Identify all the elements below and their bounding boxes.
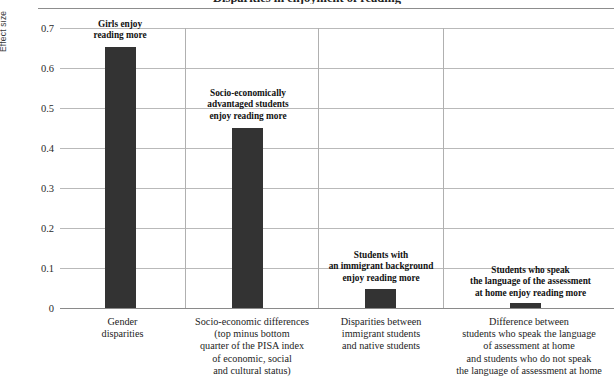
x-category-label-socioeconomic: Socio-economic differences (top minus bo… — [186, 316, 318, 377]
gridline-0 — [60, 308, 614, 309]
y-tick-label-0.4: 0.4 — [2, 143, 60, 154]
y-tick-label-0.7: 0.7 — [2, 23, 60, 34]
y-tick-label-0.2: 0.2 — [2, 223, 60, 234]
category-separator-1 — [185, 28, 186, 308]
gridline-0.6 — [60, 68, 614, 69]
y-tick-label-0.3: 0.3 — [2, 183, 60, 194]
bar-annotation-immigrant: Students with an immigrant background en… — [306, 250, 456, 284]
y-tick-label-0.1: 0.1 — [2, 263, 60, 274]
bar-annotation-gender: Girls enjoy reading more — [55, 19, 185, 42]
title-divider — [38, 8, 614, 9]
chart-title: Disparities in enjoyment of reading — [0, 0, 614, 4]
y-tick-label-0.5: 0.5 — [2, 103, 60, 114]
plot-area: 0.7 0.6 0.5 0.4 0.3 0.2 0.1 0 Girls enjo… — [60, 28, 614, 308]
y-tick-label-0.6: 0.6 — [2, 63, 60, 74]
bar-annotation-language: Students who speak the language of the a… — [447, 265, 614, 299]
bar-annotation-socioeconomic: Socio-economically advantaged students e… — [173, 88, 323, 122]
bar-immigrant-disparities — [365, 289, 396, 308]
bar-language-difference — [510, 303, 541, 308]
bar-gender-disparities — [105, 47, 136, 308]
x-category-label-language: Difference between students who speak th… — [444, 316, 614, 377]
gridline-0.4 — [60, 148, 614, 149]
bar-socioeconomic-differences — [232, 128, 263, 308]
y-tick-label-0: 0 — [2, 303, 60, 314]
x-category-label-immigrant: Disparities between immigrant students a… — [319, 316, 443, 353]
chart-container: Disparities in enjoyment of reading Effe… — [0, 0, 614, 385]
gridline-0.2 — [60, 228, 614, 229]
x-category-label-gender: Gender disparities — [60, 316, 185, 340]
gridline-0.3 — [60, 188, 614, 189]
gridline-0.5 — [60, 108, 614, 109]
